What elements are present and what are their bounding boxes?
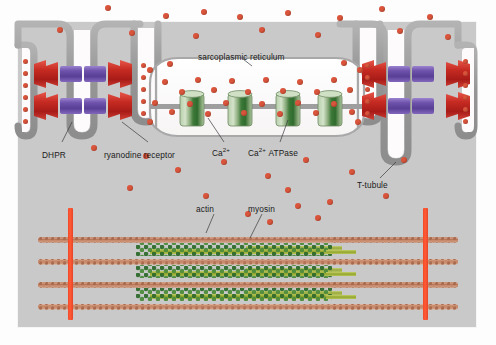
calcium-ion-sr-lumen xyxy=(241,110,247,116)
calcium-ion-cytosol-top xyxy=(57,27,63,33)
calcium-ion-sr-lumen xyxy=(179,89,185,95)
calcium-ion-cytosol-top xyxy=(285,10,291,16)
calcium-ion-t-tubule xyxy=(365,111,370,116)
label-ca-atpase-text: ATPase xyxy=(268,148,298,158)
calcium-ion-cytosol-top xyxy=(445,34,451,40)
calcium-ion-t-tubule xyxy=(23,119,28,124)
label-myosin: myosin xyxy=(248,204,275,214)
label-t-tubule: T-tubule xyxy=(357,180,388,190)
calcium-ion-cytosol xyxy=(349,169,355,175)
calcium-ion-cytosol xyxy=(401,157,407,163)
calcium-ion-sr-lumen xyxy=(295,100,301,106)
calcium-ion-sr-lumen xyxy=(357,67,363,73)
calcium-ion-cytosol-top xyxy=(337,15,343,21)
calcium-ion-sr-lumen xyxy=(223,100,229,106)
calcium-ion-sr-lumen xyxy=(211,87,217,93)
calcium-ion-cytosol xyxy=(203,193,209,199)
calcium-ion-t-tubule xyxy=(463,95,468,100)
calcium-ion-cytosol-top xyxy=(315,32,321,38)
calcium-ion-cytosol xyxy=(295,203,301,209)
calcium-ion-cytosol-top xyxy=(259,27,265,33)
calcium-ion-cytosol-top xyxy=(129,30,135,36)
calcium-ion-sr-lumen xyxy=(167,61,173,67)
calcium-ion-t-tubule xyxy=(463,59,468,64)
calcium-ion-cytosol xyxy=(315,215,321,221)
label-ca-atpase-ca: Ca xyxy=(248,148,259,158)
calcium-ion-sr-lumen xyxy=(169,109,175,115)
calcium-ion-t-tubule xyxy=(141,111,146,116)
calcium-ion-cytosol xyxy=(267,219,273,225)
calcium-ion-sr-lumen xyxy=(147,67,153,73)
calcium-ion-sr-lumen xyxy=(195,77,201,83)
calcium-ion-sr-lumen xyxy=(331,101,337,107)
calcium-ion-t-tubule xyxy=(141,75,146,80)
calcium-ion-sr-lumen xyxy=(355,119,361,125)
calcium-ion-t-tubule xyxy=(23,71,28,76)
calcium-ion-sr-lumen xyxy=(187,101,193,107)
calcium-ion-cytosol-top xyxy=(163,13,169,19)
calcium-ion-t-tubule xyxy=(365,99,370,104)
label-actin: actin xyxy=(196,204,214,214)
calcium-ion-cytosol-top xyxy=(379,6,385,12)
calcium-ion-sr-lumen xyxy=(259,101,265,107)
calcium-ion-sr-lumen xyxy=(147,119,153,125)
calcium-ion-cytosol xyxy=(127,185,133,191)
calcium-ion-cytosol xyxy=(303,157,309,163)
calcium-ion-sr-lumen xyxy=(263,77,269,83)
calcium-ion-cytosol xyxy=(221,159,227,165)
calcium-ion-t-tubule xyxy=(23,59,28,64)
calcium-ion-sr-lumen xyxy=(245,89,251,95)
calcium-ion-sr-lumen xyxy=(314,89,320,95)
calcium-ion-t-tubule xyxy=(141,63,146,68)
calcium-ion-t-tubule xyxy=(23,95,28,100)
calcium-ion-sr-lumen xyxy=(349,109,355,115)
calcium-ion-t-tubule xyxy=(141,87,146,92)
calcium-ion-sr-lumen xyxy=(341,60,347,66)
diagram-root: sarcoplasmic reticulum DHPR ryanodine re… xyxy=(0,0,496,345)
calcium-ion-t-tubule xyxy=(463,83,468,88)
calcium-ion-sr-lumen xyxy=(297,79,303,85)
calcium-ion-sr-lumen xyxy=(205,111,211,117)
label-ca-atpase-charge: 2+ xyxy=(259,146,266,153)
calcium-ion-t-tubule xyxy=(23,83,28,88)
calcium-ion-sr-lumen xyxy=(162,79,168,85)
calcium-ion-t-tubule xyxy=(463,71,468,76)
label-calcium-text: Ca xyxy=(212,148,223,158)
label-calcium-charge: 2+ xyxy=(223,146,230,153)
calcium-ion-cytosol xyxy=(265,173,271,179)
calcium-ion-sr-lumen xyxy=(229,78,235,84)
calcium-ion-t-tubule xyxy=(463,107,468,112)
calcium-ion-cytosol-top xyxy=(427,14,433,20)
calcium-ion-cytosol-top xyxy=(201,9,207,15)
calcium-ion-t-tubule xyxy=(365,87,370,92)
label-dhpr: DHPR xyxy=(42,150,66,160)
calcium-ion-cytosol xyxy=(175,167,181,173)
calcium-ion-sr-lumen xyxy=(313,110,319,116)
calcium-ion-sr-lumen xyxy=(347,87,353,93)
calcium-ion-t-tubule xyxy=(141,99,146,104)
label-sarcoplasmic-reticulum: sarcoplasmic reticulum xyxy=(198,52,285,62)
calcium-ion-sr-lumen xyxy=(280,88,286,94)
calcium-ion-t-tubule xyxy=(365,63,370,68)
calcium-ion-cytosol-top xyxy=(193,33,199,39)
label-ca-atpase: Ca2+ ATPase xyxy=(248,148,298,158)
calcium-ion-cytosol-top xyxy=(105,5,111,11)
calcium-ion-t-tubule xyxy=(365,75,370,80)
calcium-ion-t-tubule xyxy=(23,107,28,112)
calcium-ion-cytosol xyxy=(327,199,333,205)
calcium-ion-sr-lumen xyxy=(152,100,158,106)
calcium-ion-t-tubule xyxy=(463,119,468,124)
calcium-ion-cytosol-top xyxy=(397,28,403,34)
calcium-ion-cytosol xyxy=(91,145,97,151)
label-calcium: Ca2+ xyxy=(212,148,230,158)
calcium-ion-sr-lumen xyxy=(277,111,283,117)
calcium-ion-cytosol xyxy=(285,187,291,193)
calcium-ion-cytosol xyxy=(383,193,389,199)
calcium-ion-sr-lumen xyxy=(331,77,337,83)
calcium-ion-cytosol-top xyxy=(237,14,243,20)
label-ryanodine-receptor: ryanodine receptor xyxy=(104,150,175,160)
